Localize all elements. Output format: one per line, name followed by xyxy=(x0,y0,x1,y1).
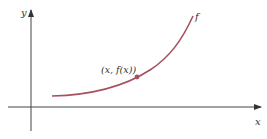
function-graph: (x, f(x)) f y x xyxy=(0,0,267,139)
y-axis-label: y xyxy=(20,7,27,18)
curve-label: f xyxy=(194,11,201,22)
function-curve xyxy=(52,16,193,96)
point-label: (x, f(x)) xyxy=(101,64,136,75)
point-marker xyxy=(135,75,140,80)
x-axis-label: x xyxy=(255,116,261,127)
